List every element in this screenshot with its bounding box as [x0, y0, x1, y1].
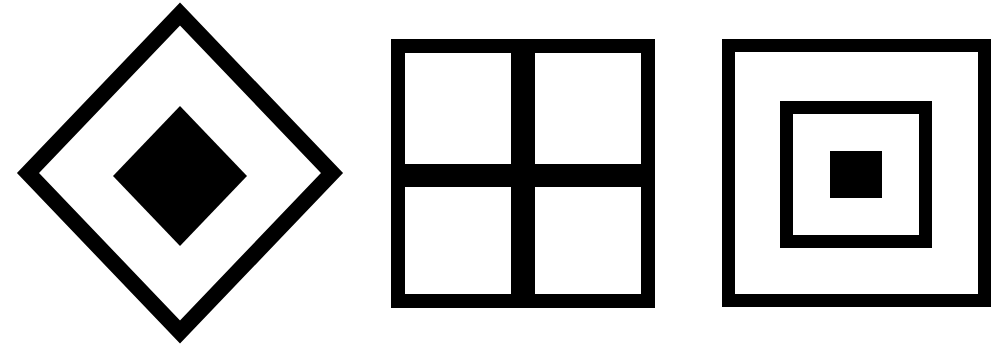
- figure-canvas: [0, 0, 1008, 345]
- inner-square-solid: [830, 151, 882, 198]
- horizontal-divider-bar: [391, 164, 655, 187]
- figures-svg: [0, 0, 1008, 345]
